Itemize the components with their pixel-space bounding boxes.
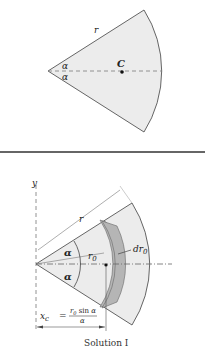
bottom-sector-figure: y r α α r0 dr0 xc = r0 sin α	[31, 178, 172, 348]
top-radius-label: r	[94, 25, 99, 35]
r0-subscript: 0	[92, 255, 97, 263]
figure-caption: Solution I	[84, 338, 129, 348]
top-centroid-label: C	[117, 58, 125, 69]
bottom-angle-upper-label: α	[64, 247, 72, 258]
xc-equals: =	[59, 311, 67, 321]
bottom-radius-label: r	[79, 214, 84, 224]
top-angle-lower-label: α	[62, 72, 68, 82]
xc-arrow-left	[37, 326, 43, 329]
diagram-canvas: C r α α y r α α r0 dr0	[0, 0, 207, 352]
bottom-angle-lower-label: α	[64, 271, 72, 282]
top-angle-upper-label: α	[62, 61, 68, 71]
top-centroid-dot	[120, 70, 124, 74]
xc-arrow-right	[99, 326, 105, 329]
xc-numerator: r0 sin α	[70, 307, 96, 316]
xc-denominator: α	[80, 317, 85, 325]
y-axis-label: y	[31, 178, 38, 188]
xc-symbol: xc	[40, 311, 49, 323]
radius-dimension-extension	[120, 186, 132, 203]
top-sector-figure: C r α α	[48, 10, 162, 132]
